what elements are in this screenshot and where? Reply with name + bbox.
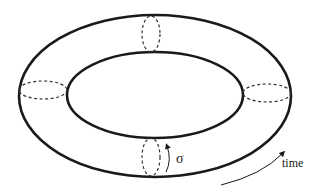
bottom-cross-section (142, 138, 160, 176)
time-arrow (221, 153, 283, 185)
top-cross-section (142, 16, 160, 52)
sigma-arrow (166, 146, 169, 172)
right-cross-section (243, 84, 291, 102)
inner-ellipse (67, 52, 243, 138)
outer-ellipse (19, 15, 291, 177)
time-label: time (282, 156, 303, 170)
left-cross-section (19, 81, 67, 99)
torus-diagram: σ time (0, 0, 321, 192)
sigma-label: σ (176, 151, 184, 166)
